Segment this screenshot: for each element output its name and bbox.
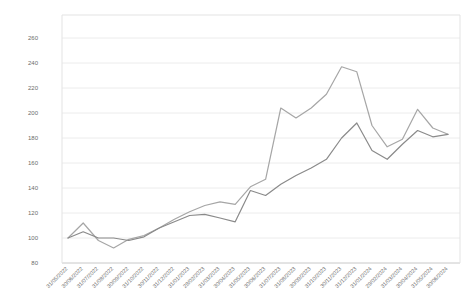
line-chart: 80100120140160180200220240260 31/05/2022… xyxy=(0,0,468,308)
y-tick-label: 120 xyxy=(28,210,39,216)
y-tick-label: 240 xyxy=(28,60,39,66)
x-axis-labels: 31/05/202230/06/202231/07/202231/08/2022… xyxy=(45,265,449,289)
data-line-line-2 xyxy=(68,123,448,241)
y-tick-label: 160 xyxy=(28,160,39,166)
series-lines xyxy=(68,67,448,248)
y-tick-label: 260 xyxy=(28,35,39,41)
y-tick-label: 100 xyxy=(28,235,39,241)
y-axis-labels: 80100120140160180200220240260 xyxy=(28,35,39,266)
y-tick-label: 200 xyxy=(28,110,39,116)
y-tick-label: 80 xyxy=(31,260,38,266)
data-line-line-1 xyxy=(68,67,448,248)
y-tick-label: 140 xyxy=(28,185,39,191)
gridlines xyxy=(62,38,460,238)
y-tick-label: 220 xyxy=(28,85,39,91)
plot-border xyxy=(62,15,460,263)
chart-canvas: 80100120140160180200220240260 31/05/2022… xyxy=(0,0,468,308)
y-tick-label: 180 xyxy=(28,135,39,141)
